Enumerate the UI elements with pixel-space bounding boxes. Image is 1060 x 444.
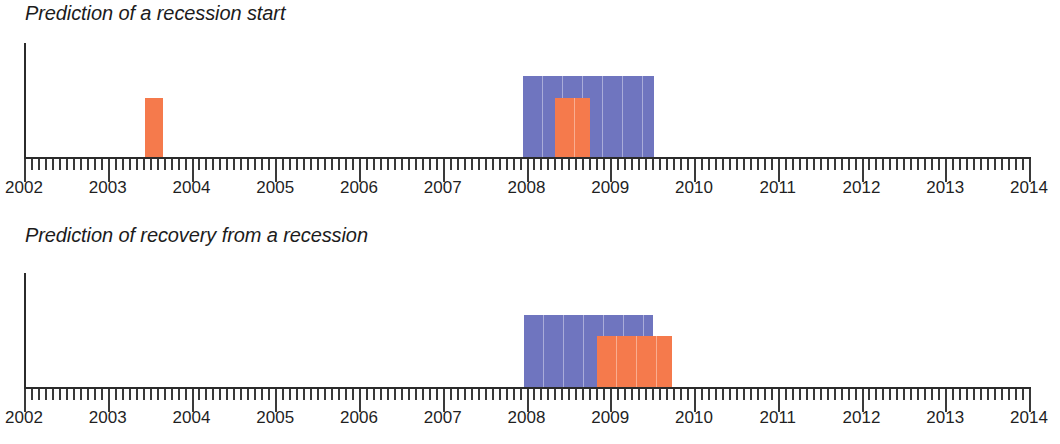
x-axis-minor-tick (848, 159, 850, 170)
x-axis-minor-tick (680, 389, 682, 400)
x-axis-minor-tick (827, 159, 829, 170)
x-axis-minor-tick (101, 389, 103, 400)
x-axis-minor-tick (499, 159, 501, 170)
x-axis-minor-tick (750, 389, 752, 400)
x-axis-minor-tick (178, 159, 180, 170)
x-axis-minor-tick (164, 389, 166, 400)
x-axis-minor-tick (520, 389, 522, 400)
x-axis-tick-label: 2007 (424, 408, 462, 428)
x-axis-minor-tick (722, 159, 724, 170)
x-axis-minor-tick (171, 159, 173, 170)
x-axis-minor-tick (568, 389, 570, 400)
x-axis-minor-tick (868, 389, 870, 400)
x-axis-minor-tick (401, 159, 403, 170)
x-axis-tick-label: 2013 (926, 408, 964, 428)
x-axis-minor-tick (345, 159, 347, 170)
x-axis-minor-tick (380, 159, 382, 170)
x-axis-minor-tick (240, 389, 242, 400)
x-axis-minor-tick (631, 389, 633, 400)
x-axis-minor-tick (736, 389, 738, 400)
x-axis-minor-tick (296, 389, 298, 400)
x-axis-minor-tick (59, 159, 61, 170)
x-axis-minor-tick (848, 389, 850, 400)
x-axis-minor-tick (980, 159, 982, 170)
x-axis-minor-tick (1015, 389, 1017, 400)
x-axis-minor-tick (324, 159, 326, 170)
x-axis-tick-label: 2005 (256, 178, 294, 198)
x-axis-minor-tick (485, 159, 487, 170)
x-axis-minor-tick (589, 389, 591, 400)
x-axis-minor-tick (771, 159, 773, 170)
x-axis-minor-tick (806, 159, 808, 170)
x-axis-minor-tick (987, 389, 989, 400)
x-axis-minor-tick (820, 389, 822, 400)
x-axis-minor-tick (143, 159, 145, 170)
x-axis-minor-tick (289, 159, 291, 170)
x-axis-minor-tick (903, 159, 905, 170)
x-axis-minor-tick (136, 159, 138, 170)
x-axis-minor-tick (94, 159, 96, 170)
x-axis-minor-tick (387, 389, 389, 400)
x-axis-tick-label: 2006 (340, 178, 378, 198)
x-axis-minor-tick (164, 159, 166, 170)
x-axis-minor-tick (471, 389, 473, 400)
x-axis-minor-tick (506, 159, 508, 170)
x-axis-minor-tick (429, 159, 431, 170)
x-axis-minor-tick (122, 159, 124, 170)
x-axis-minor-tick (771, 389, 773, 400)
x-axis-minor-tick (380, 389, 382, 400)
x-axis-minor-tick (485, 389, 487, 400)
x-axis-minor-tick (240, 159, 242, 170)
x-axis-minor-tick (331, 389, 333, 400)
x-axis-minor-tick (157, 159, 159, 170)
x-axis-minor-tick (666, 389, 668, 400)
x-axis-minor-tick (820, 159, 822, 170)
x-axis-minor-tick (94, 389, 96, 400)
x-axis-minor-tick (464, 389, 466, 400)
x-axis-tick-label: 2006 (340, 408, 378, 428)
x-axis-minor-tick (436, 159, 438, 170)
x-axis-minor-tick (966, 389, 968, 400)
x-axis-minor-tick (450, 159, 452, 170)
x-axis-minor-tick (952, 389, 954, 400)
x-axis-minor-tick (785, 159, 787, 170)
x-axis-minor-tick (750, 159, 752, 170)
x-axis-tick-label: 2010 (675, 178, 713, 198)
x-axis-minor-tick (645, 389, 647, 400)
x-axis-minor-tick (219, 389, 221, 400)
x-axis-minor-tick (422, 159, 424, 170)
x-axis-minor-tick (533, 389, 535, 400)
x-axis-minor-tick (422, 389, 424, 400)
x-axis-minor-tick (1008, 389, 1010, 400)
x-axis-minor-tick (268, 159, 270, 170)
x-axis-minor-tick (1022, 159, 1024, 170)
bar-orange (597, 336, 672, 387)
x-axis-minor-tick (31, 159, 33, 170)
x-axis-tick-label: 2009 (591, 178, 629, 198)
x-axis-minor-tick (87, 159, 89, 170)
x-axis-minor-tick (931, 159, 933, 170)
x-axis-minor-tick (115, 159, 117, 170)
x-axis-minor-tick (282, 159, 284, 170)
x-axis-tick-label: 2005 (256, 408, 294, 428)
x-axis-minor-tick (394, 389, 396, 400)
x-axis-minor-tick (331, 159, 333, 170)
x-axis-tick-label: 2010 (675, 408, 713, 428)
x-axis-minor-tick (31, 389, 33, 400)
x-axis-minor-tick (568, 159, 570, 170)
x-axis-minor-tick (310, 159, 312, 170)
x-axis-tick-label: 2009 (591, 408, 629, 428)
x-axis-minor-tick (764, 159, 766, 170)
x-axis-minor-tick (415, 389, 417, 400)
x-axis-tick-label: 2003 (89, 178, 127, 198)
x-axis-minor-tick (73, 159, 75, 170)
x-axis-minor-tick (122, 389, 124, 400)
x-axis-minor-tick (554, 389, 556, 400)
x-axis-minor-tick (987, 159, 989, 170)
x-axis-tick-label: 2002 (5, 178, 43, 198)
x-axis-minor-tick (813, 389, 815, 400)
x-axis-minor-tick (799, 389, 801, 400)
x-axis-minor-tick (1001, 389, 1003, 400)
x-axis-minor-tick (185, 389, 187, 400)
x-axis-minor-tick (352, 389, 354, 400)
